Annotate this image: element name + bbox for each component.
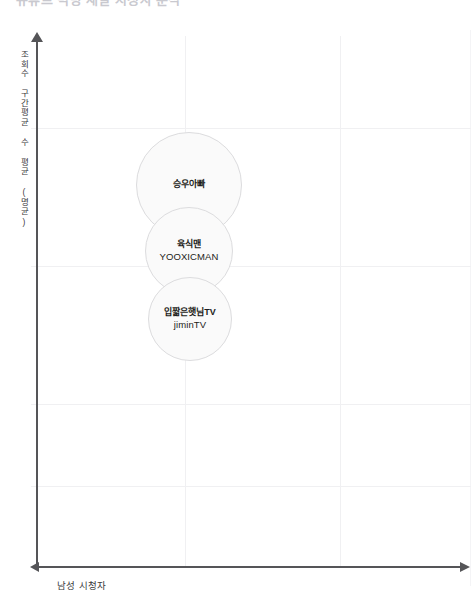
y-axis-line bbox=[36, 40, 38, 568]
bubble-label-korean: 입짧은햇님TV bbox=[164, 307, 216, 319]
plot-area bbox=[31, 36, 471, 566]
gridline-horizontal-2 bbox=[31, 266, 471, 267]
x-axis-label: 남성 시청자 bbox=[57, 578, 106, 592]
gridline-horizontal-4 bbox=[31, 486, 471, 487]
bubble-point[interactable]: 입짧은햇님TV jiminTV bbox=[148, 277, 232, 361]
gridline-horizontal-1 bbox=[31, 128, 471, 129]
y-axis-label: 조회수 구간평균 수 평균 (명균) bbox=[13, 50, 29, 227]
x-axis-arrowhead-left-icon bbox=[30, 562, 39, 572]
bubble-label-korean: 승우아빠 bbox=[173, 179, 205, 191]
bubble-label-korean: 육식맨 bbox=[177, 239, 201, 251]
page-title: 유튜브 먹방 채널 시청자 분석 bbox=[16, 0, 181, 7]
x-axis-line bbox=[36, 566, 464, 568]
bubble-label-english: jiminTV bbox=[174, 319, 206, 331]
gridline-horizontal-3 bbox=[31, 404, 471, 405]
chart-title-clipped: 유튜브 먹방 채널 시청자 분석 bbox=[0, 0, 471, 7]
x-axis-arrowhead-right-icon bbox=[460, 562, 470, 572]
bubble-label-english: YOOXICMAN bbox=[160, 251, 219, 263]
bubble-chart-canvas: 유튜브 먹방 채널 시청자 분석 조회수 구간평균 수 평균 (명균) 남성 시… bbox=[0, 0, 471, 616]
